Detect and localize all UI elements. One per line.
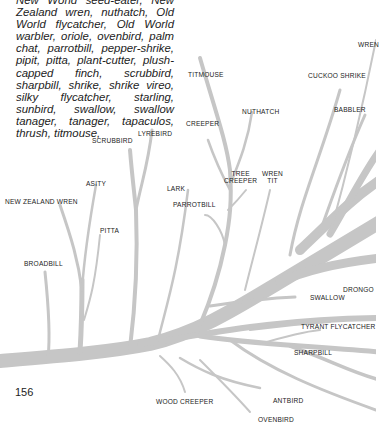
label-parrotbill: PARROTBILL — [173, 201, 216, 208]
label-wood-creeper: WOOD CREEPER — [156, 398, 213, 405]
label-pitta: PITTA — [100, 227, 119, 234]
label-babbler: BABBLER — [334, 106, 366, 113]
label-tree-creeper-line1: TREE — [224, 170, 257, 177]
label-wren: WREN — [358, 41, 379, 48]
label-scrubbird: SCRUBBIRD — [92, 137, 133, 144]
label-creeper: CREEPER — [186, 120, 219, 127]
label-wren-tit-line1: WREN — [262, 170, 283, 177]
label-new-zealand-wren: NEW ZEALAND WREN — [5, 198, 78, 205]
label-antbird: ANTBIRD — [273, 397, 303, 404]
label-tree-creeper: TREE CREEPER — [224, 170, 257, 184]
label-wren-tit-line2: TIT — [262, 177, 283, 184]
label-tree-creeper-line2: CREEPER — [224, 177, 257, 184]
page-number: 156 — [15, 386, 33, 398]
label-broadbill: BROADBILL — [24, 260, 63, 267]
label-swallow: SWALLOW — [310, 294, 345, 301]
label-asity: ASITY — [86, 180, 106, 187]
label-lark: LARK — [167, 185, 185, 192]
label-nuthatch: NUTHATCH — [242, 108, 279, 115]
label-sharpbill: SHARPBILL — [294, 349, 332, 356]
label-drongo: DRONGO — [343, 286, 374, 293]
label-lyrebird: LYREBIRD — [138, 130, 172, 137]
label-wren-tit: WREN TIT — [262, 170, 283, 184]
label-tyrant-flycatcher: TYRANT FLYCATCHER — [301, 323, 375, 330]
label-ovenbird: OVENBIRD — [258, 416, 294, 423]
label-titmouse: TITMOUSE — [188, 71, 224, 78]
label-cuckoo-shrike: CUCKOO SHRIKE — [308, 72, 366, 79]
